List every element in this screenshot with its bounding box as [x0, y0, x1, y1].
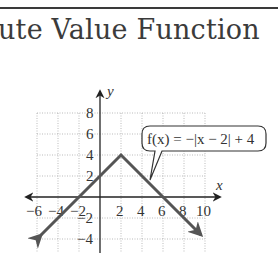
svg-text:4: 4: [137, 203, 145, 219]
svg-text:8: 8: [86, 105, 94, 121]
svg-text:6: 6: [86, 126, 94, 142]
svg-text:2: 2: [116, 203, 124, 219]
svg-text:−4: −4: [48, 203, 64, 219]
svg-text:6: 6: [158, 203, 166, 219]
svg-text:−4: −4: [77, 231, 93, 247]
function-graph: y x 8 6 4 2 −2 −4 −6 −4 −2 2 4 6 8 10 f(…: [0, 0, 278, 253]
svg-text:−6: −6: [26, 203, 42, 219]
x-axis-label: x: [215, 177, 223, 193]
svg-text:4: 4: [86, 147, 94, 163]
equation-callout: f(x) = −|x − 2| + 4: [142, 126, 266, 180]
svg-text:10: 10: [196, 203, 211, 219]
equation-label: f(x) = −|x − 2| + 4: [147, 131, 255, 148]
y-axis-label: y: [105, 83, 114, 99]
